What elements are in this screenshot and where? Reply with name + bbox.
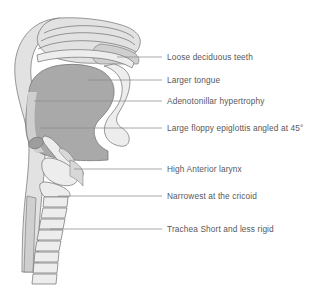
anatomy-illustration — [0, 0, 323, 288]
callout-label-high-anterior-larynx: High Anterior larynx — [167, 164, 242, 174]
trachea-ring — [32, 274, 57, 284]
callout-label-loose-deciduous-teeth: Loose deciduous teeth — [167, 52, 253, 62]
airway-anatomy-figure: Loose deciduous teethLarger tongueAdenot… — [0, 0, 323, 288]
callout-label-larger-tongue: Larger tongue — [167, 75, 220, 85]
callout-label-trachea-short-and-less-rigid: Trachea Short and less rigid — [167, 224, 274, 234]
trachea-ring — [43, 197, 68, 207]
trachea-ring — [33, 263, 58, 273]
callout-label-narrowest-at-the-cricoid: Narrowest at the cricoid — [167, 191, 257, 201]
trachea-ring — [39, 219, 65, 229]
trachea-ring — [34, 252, 59, 262]
trachea-ring — [35, 241, 61, 251]
trachea-ring — [37, 230, 63, 240]
callout-label-large-floppy-epiglottis: Large floppy epiglottis angled at 45° — [167, 123, 303, 133]
trachea-ring — [41, 208, 67, 218]
callout-label-adenotonillar-hypertrophy: Adenotonillar hypertrophy — [167, 96, 265, 106]
